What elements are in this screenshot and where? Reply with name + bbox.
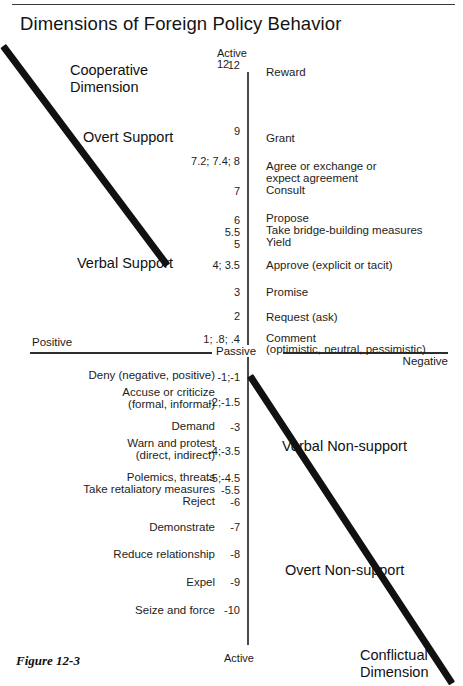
scale-value: 7.2; 7.4; 8 <box>140 155 240 167</box>
label-cooperative-dimension: Cooperative Dimension <box>70 62 148 96</box>
scale-value: 2 <box>140 310 240 322</box>
behavior-label: (formal, informal) <box>15 398 215 411</box>
behavior-label: Approve (explicit or tacit) <box>266 259 393 272</box>
vertical-axis-line <box>247 72 249 645</box>
behavior-label: Demand <box>15 420 215 433</box>
scale-value: 5.5 <box>140 226 240 238</box>
label-conflictual-dimension: Conflictual Dimension <box>360 647 429 681</box>
horizontal-axis-left-line <box>30 352 212 354</box>
scale-value: 12 <box>140 59 240 71</box>
axis-label-positive: Positive <box>32 336 72 348</box>
scale-value: 3 <box>140 286 240 298</box>
page-title: Dimensions of Foreign Policy Behavior <box>20 13 341 35</box>
behavior-label: Yield <box>266 236 291 249</box>
cooperative-dimension-line2: Dimension <box>70 79 139 95</box>
axis-label-active-bottom: Active <box>224 652 254 664</box>
behavior-label: (direct, indirect) <box>15 449 215 462</box>
scale-value: 6 <box>140 214 240 226</box>
conflictual-dimension-diagonal-line <box>248 374 455 685</box>
behavior-label: (optimistic, neutral, pessimistic) <box>266 343 426 356</box>
behavior-label: Demonstrate <box>15 521 215 534</box>
axis-label-negative: Negative <box>350 355 448 367</box>
top-divider-rule <box>12 4 455 5</box>
cooperative-dimension-line1: Cooperative <box>70 62 148 78</box>
scale-value: 1; .8; .4 <box>140 333 240 345</box>
behavior-label: Reduce relationship <box>15 548 215 561</box>
label-overt-non-support: Overt Non-support <box>285 562 404 578</box>
behavior-label: Promise <box>266 286 308 299</box>
behavior-label: Seize and force <box>15 604 215 617</box>
behavior-label: Grant <box>266 132 295 145</box>
behavior-label: Deny (negative, positive) <box>15 369 215 382</box>
scale-value: 4; 3.5 <box>140 259 240 271</box>
conflictual-dimension-line1: Conflictual <box>360 647 428 663</box>
scale-value: 7 <box>140 185 240 197</box>
conflictual-dimension-line2: Dimension <box>360 664 429 680</box>
behavior-label: Reward <box>266 66 306 79</box>
behavior-label: Request (ask) <box>266 311 338 324</box>
figure-caption: Figure 12-3 <box>16 653 80 669</box>
figure-dimensions-of-foreign-policy-behavior: Dimensions of Foreign Policy Behavior Ac… <box>0 0 463 686</box>
scale-value: 5 <box>140 238 240 250</box>
behavior-label: Consult <box>266 184 305 197</box>
behavior-label: Reject <box>15 495 215 508</box>
label-verbal-non-support: Verbal Non-support <box>282 438 407 454</box>
behavior-label: Expel <box>15 576 215 589</box>
scale-value: 9 <box>140 125 240 137</box>
axis-label-passive: Passive <box>213 345 259 357</box>
